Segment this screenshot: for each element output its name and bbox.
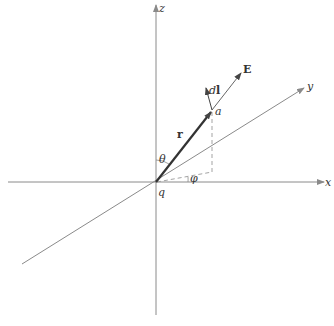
position-vector-r — [156, 112, 211, 182]
position-r-label: r — [177, 128, 183, 141]
phi-label: φ — [190, 172, 198, 185]
diagram-canvas: z x y E dl a r θ φ q — [0, 0, 334, 326]
y-axis-label: y — [306, 80, 314, 93]
point-a-label: a — [215, 105, 222, 118]
x-axis-label: x — [325, 176, 332, 189]
z-axis-label: z — [158, 2, 165, 15]
y-axis — [22, 88, 304, 264]
theta-label: θ — [159, 153, 166, 166]
projection-horizontal-dashed — [157, 172, 212, 182]
field-e-label: E — [243, 63, 251, 76]
charge-q-label: q — [158, 186, 165, 199]
line-element-dl-label: dl — [209, 84, 220, 97]
